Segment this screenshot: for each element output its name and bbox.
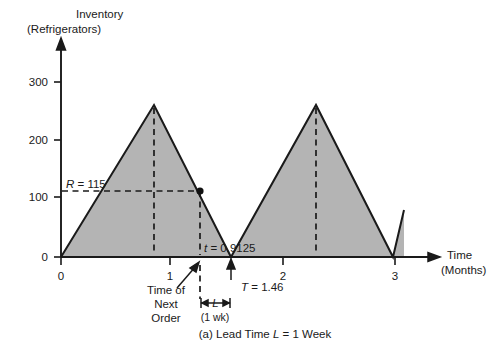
order-caption-line2: Next	[154, 298, 178, 310]
y-tick-label-0: 0	[42, 251, 48, 263]
x-tick-label-3: 3	[392, 270, 398, 282]
figure-caption-prefix: (a) Lead Time	[199, 328, 273, 340]
y-axis-label-line2: (Refrigerators)	[27, 23, 101, 35]
y-tick-label-200: 200	[29, 134, 48, 146]
x-axis-label-line2: (Months)	[441, 264, 487, 276]
y-axis-arrowhead	[57, 38, 66, 50]
reorder-point-marker	[196, 187, 203, 194]
x-tick-label-0: 0	[58, 270, 64, 282]
cycle-time-pointer-arrowhead	[227, 259, 235, 269]
reorder-point-symbol: R	[66, 178, 74, 190]
y-tick-label-300: 300	[29, 76, 48, 88]
y-tick-label-100: 100	[29, 191, 48, 203]
lead-time-symbol: L	[212, 297, 218, 309]
x-tick-label-1: 1	[167, 270, 173, 282]
reorder-point-annotation: R = 115	[66, 178, 106, 190]
chart-svg: 0 100 200 300 0 1 2 3 Inventory (Refrige…	[0, 0, 500, 347]
x-axis-label-line1: Time	[447, 249, 472, 261]
order-caption-line1: Time of	[147, 284, 186, 296]
x-axis-arrowhead	[428, 253, 440, 262]
reorder-point-value: = 115	[74, 178, 105, 190]
inventory-area-fill	[61, 105, 404, 257]
cycle-time-annotation: T = 1.46	[241, 281, 284, 293]
reorder-time-annotation: t = 0.9125	[204, 242, 255, 254]
order-caption-line3: Order	[151, 312, 181, 324]
lead-time-arrow-right	[223, 300, 229, 306]
inventory-chart-figure: 0 100 200 300 0 1 2 3 Inventory (Refrige…	[0, 0, 500, 347]
figure-caption: (a) Lead Time L = 1 Week	[199, 328, 332, 340]
lead-time-note: (1 wk)	[201, 311, 230, 323]
reorder-time-value: = 0.9125	[207, 242, 255, 254]
figure-caption-suffix: = 1 Week	[279, 328, 331, 340]
cycle-time-value: = 1.46	[248, 281, 284, 293]
y-axis-label-line1: Inventory	[76, 8, 124, 20]
lead-time-arrow-left	[202, 300, 208, 306]
